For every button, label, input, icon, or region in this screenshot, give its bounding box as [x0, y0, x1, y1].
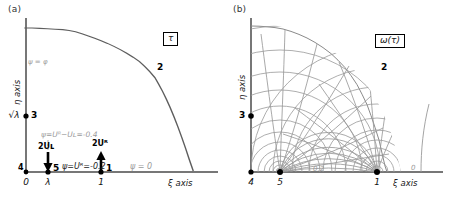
panel-a-point-3: [23, 113, 28, 118]
figure-root: (a) η axis: [0, 0, 451, 200]
panel-b-point-label-2: 2: [381, 62, 387, 72]
panel-a-annotation-psi-right: ψ=Uᴿ=-0.2: [62, 162, 106, 171]
panel-b-x-axis-label: ξ axis: [393, 178, 417, 188]
panel-a-x-axis-label: ξ axis: [168, 178, 192, 188]
panel-a-point-label-4: 4: [18, 163, 24, 172]
panel-a-annotation-psi-phi: ψ = φ: [28, 58, 44, 67]
panel-b-point-label-3: 3: [239, 110, 245, 120]
panel-a-point-label-2: 2: [157, 62, 163, 72]
panel-b-plot: [225, 0, 451, 200]
panel-a-annotation-psi-jump: ψ=Uᴿ−Uʟ=-0.4: [41, 130, 98, 139]
panel-a-point-label-1: 1: [106, 163, 112, 173]
panel-a-arrow-label-2ur: 2Uᴿ: [92, 139, 108, 148]
panel-b-point-5: [277, 169, 283, 175]
panel-a-ytick-sqrt-lambda: √λ: [4, 110, 24, 120]
panel-a-point-label-5: 5: [53, 163, 59, 173]
panel-b-point-1: [374, 169, 380, 175]
panel-a-arrow-label-2ul: 2Uʟ: [38, 142, 54, 151]
panel-a-point-label-3: 3: [31, 110, 37, 120]
panel-b-boxed-label: ω(τ): [375, 34, 405, 48]
panel-b-point-3: [248, 113, 254, 119]
panel-b: (b): [225, 0, 451, 200]
panel-a-xtick-1: 1: [94, 177, 108, 187]
panel-b-contour-label-02: 0.2: [313, 165, 324, 173]
panel-b-xtick-1: 1: [370, 177, 384, 187]
panel-b-xtick-5: 5: [273, 177, 287, 187]
panel-b-xtick-4: 4: [244, 177, 258, 187]
panel-a-point-4: [24, 170, 29, 175]
panel-b-y-axis-label: η axis: [237, 75, 247, 100]
panel-a-annotation-psi-zero: ψ = 0: [130, 162, 152, 171]
arrow-2ul-down: [43, 152, 52, 172]
panel-b-point-4: [248, 169, 253, 174]
panel-b-contour-label-0: 0: [411, 164, 415, 172]
panel-a-xtick-lambda: λ: [41, 177, 55, 187]
panel-a-xtick-0: 0: [19, 177, 33, 187]
panel-a-y-axis-label: η axis: [12, 80, 22, 105]
iso-sigma-spokes: [261, 30, 389, 172]
panel-a: (a) η axis: [0, 0, 226, 200]
panel-a-boxed-label: τ: [163, 32, 178, 46]
panel-b-contour-zero-line: [421, 104, 429, 172]
panel-a-plot: [0, 0, 226, 200]
